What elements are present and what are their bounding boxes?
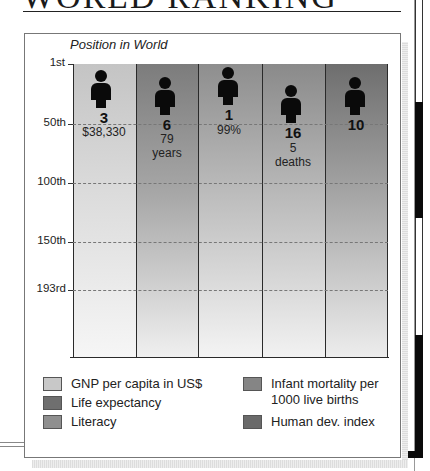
side-bar-foot <box>408 451 423 458</box>
person-icon <box>218 67 238 105</box>
data-value-unit: deaths <box>262 155 324 169</box>
y-tick-label: 50th <box>26 116 66 128</box>
gridline-100th <box>73 183 388 184</box>
rank-value: 6 <box>136 116 198 133</box>
legend-label-line1: Infant mortality per <box>271 376 379 392</box>
y-tick-label: 150th <box>26 234 66 246</box>
legend-swatch <box>243 415 262 429</box>
gridline-193rd <box>73 290 388 291</box>
person-icon <box>345 77 365 115</box>
legend-swatch <box>243 377 262 391</box>
data-value: 79 <box>136 132 198 146</box>
y-tick-label: 100th <box>26 175 66 187</box>
rank-value: 1 <box>198 106 260 123</box>
data-value: $38,330 <box>73 125 135 139</box>
legend-item-life-expectancy: Life expectancy <box>43 395 161 411</box>
y-tick-label: 193rd <box>26 282 66 294</box>
y-tick-mark <box>68 242 73 243</box>
side-bar-white-2 <box>415 218 423 335</box>
person-icon <box>91 70 111 108</box>
side-bar-black-1 <box>415 102 423 218</box>
title-rule <box>23 11 401 12</box>
y-tick-mark <box>68 183 73 184</box>
legend-swatch <box>43 377 62 391</box>
data-value-unit: years <box>136 146 198 160</box>
y-tick-mark <box>68 290 73 291</box>
legend-label: Literacy <box>71 414 117 430</box>
y-tick-mark <box>68 64 73 65</box>
legend-swatch <box>43 415 62 429</box>
gridline-150th <box>73 242 388 243</box>
frame-shadow-bottom <box>32 460 408 468</box>
rank-value: 3 <box>73 109 135 126</box>
side-bar-white-1 <box>415 0 423 102</box>
legend-label: Infant mortality per 1000 live births <box>271 376 379 408</box>
legend-item-human-dev-index: Human dev. index <box>243 414 375 430</box>
frame-shadow-right <box>402 42 408 462</box>
rank-value: 10 <box>325 116 387 133</box>
legend-item-gnp: GNP per capita in US$ <box>43 376 202 392</box>
side-bar-black-2 <box>415 335 423 458</box>
legend-label: Human dev. index <box>271 414 375 430</box>
legend-item-literacy: Literacy <box>43 414 117 430</box>
legend-label: GNP per capita in US$ <box>71 376 202 392</box>
person-icon <box>155 77 175 115</box>
page-title: WORLD RANKING <box>22 0 338 16</box>
x-axis-baseline <box>70 357 389 358</box>
legend-swatch <box>43 396 62 410</box>
legend-item-infant-mortality: Infant mortality per 1000 live births <box>243 376 379 408</box>
legend-label: Life expectancy <box>71 395 161 411</box>
chart-title: Position in World <box>70 37 168 52</box>
legend-label-line2: 1000 live births <box>271 392 379 408</box>
left-rule <box>0 446 24 447</box>
left-rule <box>0 442 24 443</box>
data-value: 5 <box>262 141 324 155</box>
data-value: 99% <box>198 123 260 137</box>
rank-value: 16 <box>262 124 324 141</box>
y-tick-label: 1st <box>25 56 65 68</box>
person-icon <box>281 85 301 123</box>
